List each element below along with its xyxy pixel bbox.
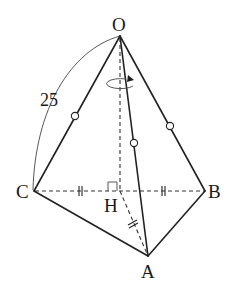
label-h: H xyxy=(104,195,118,216)
tick-marker-ha xyxy=(128,220,138,228)
label-a: A xyxy=(141,261,155,282)
label-length-25: 25 xyxy=(40,90,58,110)
edge-ab xyxy=(148,191,205,256)
edge-ob xyxy=(120,36,205,191)
equal-marker-oc xyxy=(71,112,78,119)
label-b: B xyxy=(208,181,221,202)
label-c: C xyxy=(16,181,29,202)
pyramid-diagram: O C B A H 25 xyxy=(0,0,239,302)
equal-marker-oa xyxy=(130,139,137,146)
right-angle-icon xyxy=(108,182,117,191)
label-o: O xyxy=(112,14,126,35)
equal-marker-ob xyxy=(166,122,173,129)
